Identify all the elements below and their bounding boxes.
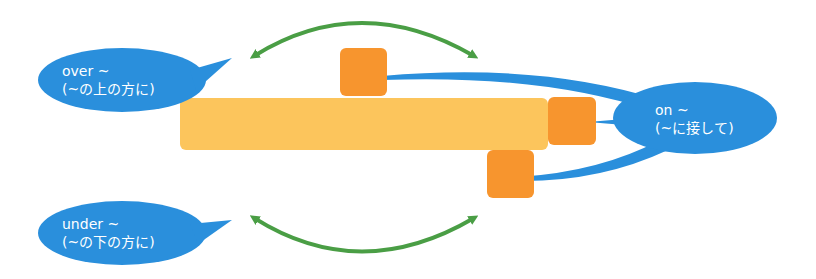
on-meaning: (~に接して) bbox=[655, 119, 734, 137]
bubble-over-text: over ~ (~の上の方に) bbox=[62, 62, 155, 98]
under-meaning: (~の下の方に) bbox=[62, 233, 155, 251]
box-on bbox=[548, 97, 596, 145]
over-meaning: (~の上の方に) bbox=[62, 80, 155, 98]
bubble-on-text: on ~ (~に接して) bbox=[655, 101, 734, 137]
reference-bar bbox=[180, 98, 548, 150]
bubble-under-text: under ~ (~の下の方に) bbox=[62, 215, 155, 251]
on-term: on ~ bbox=[655, 101, 734, 119]
box-under bbox=[487, 150, 534, 198]
under-double-arrow bbox=[254, 218, 474, 252]
over-term: over ~ bbox=[62, 62, 155, 80]
box-over bbox=[340, 48, 387, 96]
under-term: under ~ bbox=[62, 215, 155, 233]
